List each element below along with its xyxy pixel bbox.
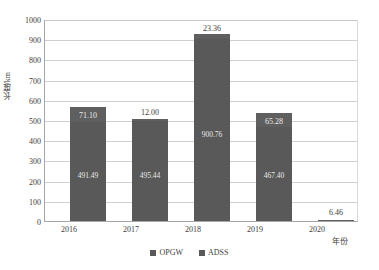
legend-label-adss: ADSS — [208, 248, 228, 257]
y-tick-800: 800 — [29, 56, 41, 65]
y-tick-1000: 1000 — [25, 16, 41, 25]
bar-label-opgw-2017: 495.44 — [132, 171, 168, 180]
bar-segment-adss-2020 — [318, 220, 354, 221]
y-tick-500: 500 — [29, 117, 41, 126]
legend-label-opgw: OPGW — [159, 248, 183, 257]
bar-label-opgw-2019: 467.40 — [256, 171, 292, 180]
y-tick-600: 600 — [29, 96, 41, 105]
x-tick-2019: 2019 — [224, 225, 286, 234]
legend-item-opgw: OPGW — [150, 248, 183, 257]
bar-label-opgw-2018: 900.76 — [194, 130, 230, 139]
y-tick-200: 200 — [29, 177, 41, 186]
y-tick-300: 300 — [29, 157, 41, 166]
legend-item-adss: ADSS — [199, 248, 228, 257]
x-tick-2018: 2018 — [162, 225, 224, 234]
y-tick-100: 100 — [29, 197, 41, 206]
bar-segment-adss-2018 — [194, 34, 230, 39]
legend-swatch-adss-icon — [199, 250, 205, 256]
chart-legend: OPGW ADSS — [0, 248, 379, 257]
bar-label-adss-2016: 71.10 — [56, 111, 120, 120]
y-tick-900: 900 — [29, 36, 41, 45]
bar-segment-adss-2017 — [132, 119, 168, 121]
x-axis-title: 年份 — [332, 235, 348, 246]
plot-area: 491.49 71.10 495.44 12.00 900.76 23.36 4… — [44, 20, 358, 222]
x-tick-2016: 2016 — [38, 225, 100, 234]
y-tick-700: 700 — [29, 76, 41, 85]
bar-label-adss-2019: 65.28 — [242, 117, 306, 126]
x-tick-2020: 2020 — [286, 225, 348, 234]
y-tick-400: 400 — [29, 137, 41, 146]
bar-chart: 长度/km 0 100 200 300 400 500 600 700 800 … — [0, 0, 379, 270]
gridline-1000 — [45, 20, 357, 21]
legend-swatch-opgw-icon — [150, 250, 156, 256]
x-tick-2017: 2017 — [100, 225, 162, 234]
bar-label-opgw-2016: 491.49 — [70, 171, 106, 180]
bar-label-adss-2018: 23.36 — [180, 24, 244, 33]
bar-label-adss-2017: 12.00 — [118, 108, 182, 117]
bar-label-adss-2020: 6.46 — [304, 208, 368, 217]
